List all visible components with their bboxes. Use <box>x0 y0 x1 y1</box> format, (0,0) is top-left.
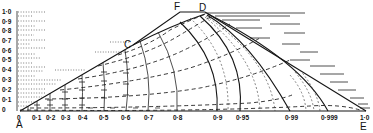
point-label-F: F <box>174 1 180 12</box>
y-tick-0.8: 0·8 <box>2 27 12 34</box>
y-tick-0.4: 0·4 <box>2 66 12 73</box>
y-axis-labels: 0 0·1 0·2 0·3 0·4 0·5 0·6 0·7 0·8 0·9 1·… <box>2 8 12 113</box>
dotted-level-lines <box>18 12 130 106</box>
x-tick-0.5: 0·5 <box>99 114 109 121</box>
y-tick-0.5: 0·5 <box>2 56 12 63</box>
flow-net-diagram: 0 0·1 0·2 0·3 0·4 0·5 0·6 0·7 0·8 0·9 1·… <box>0 0 373 133</box>
x-tick-0.8: 0·8 <box>173 114 183 121</box>
x-tick-0.2: 0·2 <box>46 114 56 121</box>
point-label-D: D <box>199 2 206 13</box>
x-tick-0.3: 0·3 <box>61 114 71 121</box>
point-label-C: C <box>124 39 131 50</box>
x-tick-0.999: 0·999 <box>321 114 338 121</box>
y-tick-0.2: 0·2 <box>2 86 12 93</box>
y-tick-0.1: 0·1 <box>2 96 12 103</box>
y-tick-0.9: 0·9 <box>2 18 12 25</box>
y-tick-0.6: 0·6 <box>2 47 12 54</box>
y-tick-0.3: 0·3 <box>2 76 12 83</box>
y-tick-0: 0 <box>2 106 6 113</box>
x-tick-0.7: 0·7 <box>144 114 154 121</box>
x-tick-0.95: 0·95 <box>236 114 249 121</box>
point-label-E: E <box>360 121 367 132</box>
x-tick-0: 0 <box>17 114 21 121</box>
flow-lines <box>20 14 360 111</box>
x-tick-1.0: 1·0 <box>360 114 370 121</box>
y-tick-1.0: 1·0 <box>2 8 12 15</box>
x-axis-labels: 0 0·1 0·2 0·3 0·4 0·5 0·6 0·7 0·8 0·9 0·… <box>17 114 370 121</box>
x-tick-0.1: 0·1 <box>32 114 42 121</box>
x-tick-0.6: 0·6 <box>121 114 131 121</box>
x-tick-0.4: 0·4 <box>78 114 88 121</box>
x-tick-0.99: 0·99 <box>285 114 298 121</box>
equipotential-lines <box>28 14 328 111</box>
x-tick-0.9: 0·9 <box>213 114 223 121</box>
y-tick-0.7: 0·7 <box>2 37 12 44</box>
